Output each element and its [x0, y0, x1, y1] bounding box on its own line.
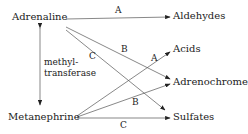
node-aldehydes: Aldehydes — [173, 11, 225, 21]
edge-label-a-top: A — [115, 6, 122, 15]
edge-label-a-bottom: A — [151, 54, 158, 63]
enzyme-label-line2: transferase — [44, 69, 96, 78]
edge-label-b-bottom: B — [132, 98, 139, 107]
enzyme-label-line1: methyl- — [44, 58, 78, 67]
edge-label-c-bottom: C — [120, 121, 127, 130]
node-metanephrine: Metanephrine — [8, 112, 80, 122]
node-adrenochrome: Adrenochrome — [173, 77, 248, 87]
edge-metanephrine-adrenochrome — [77, 84, 170, 117]
node-adrenaline: Adrenaline — [12, 12, 67, 22]
node-acids: Acids — [173, 44, 201, 54]
node-sulfates: Sulfates — [173, 112, 214, 122]
edge-adrenaline-aldehydes — [66, 17, 170, 19]
edge-label-c-top: C — [89, 52, 96, 61]
edge-label-b-top: B — [121, 45, 128, 54]
